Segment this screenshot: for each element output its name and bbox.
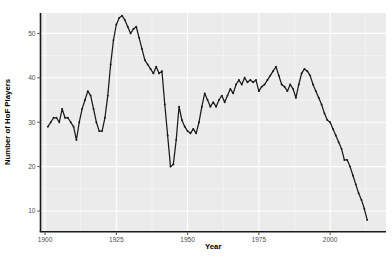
data-point: [84, 99, 86, 101]
data-point: [50, 121, 52, 123]
data-point: [304, 68, 306, 70]
y-tick-label: 50: [28, 30, 36, 37]
data-point: [261, 86, 263, 88]
data-point: [135, 26, 137, 28]
data-point: [244, 77, 246, 79]
data-point: [138, 37, 140, 39]
data-point: [209, 106, 211, 108]
data-point: [361, 199, 363, 201]
data-point: [264, 84, 266, 86]
data-point: [266, 79, 268, 81]
data-point: [346, 159, 348, 161]
data-point: [170, 166, 172, 168]
data-point: [73, 126, 75, 128]
data-point: [318, 97, 320, 99]
data-point: [141, 48, 143, 50]
data-point: [212, 101, 214, 103]
data-point: [56, 117, 58, 119]
data-point: [338, 141, 340, 143]
data-point: [278, 75, 280, 77]
data-point: [67, 117, 69, 119]
data-point: [161, 70, 163, 72]
data-point: [358, 192, 360, 194]
data-point: [341, 148, 343, 150]
data-point: [70, 121, 72, 123]
data-point: [192, 128, 194, 130]
data-point: [64, 117, 66, 119]
data-point: [150, 68, 152, 70]
data-point: [152, 72, 154, 74]
data-point: [272, 70, 274, 72]
data-point: [232, 92, 234, 94]
data-point: [355, 183, 357, 185]
data-point: [241, 84, 243, 86]
data-point: [81, 108, 83, 110]
data-point: [93, 108, 95, 110]
x-tick-label: 1975: [252, 236, 267, 243]
data-point: [95, 121, 97, 123]
data-point: [178, 106, 180, 108]
data-point: [249, 79, 251, 81]
data-point: [269, 75, 271, 77]
chart-page: 190019251950197520001020304050YearNumber…: [0, 0, 392, 257]
data-point: [115, 24, 117, 26]
data-point: [144, 59, 146, 61]
x-tick-label: 1950: [180, 236, 195, 243]
y-tick-label: 30: [28, 119, 36, 126]
data-point: [335, 135, 337, 137]
data-point: [127, 26, 129, 28]
data-point: [147, 64, 149, 66]
data-point: [172, 163, 174, 165]
y-tick-label: 20: [28, 163, 36, 170]
data-point: [132, 28, 134, 30]
data-point: [329, 121, 331, 123]
data-point: [104, 117, 106, 119]
data-point: [195, 132, 197, 134]
data-point: [295, 97, 297, 99]
data-point: [61, 108, 63, 110]
data-point: [181, 119, 183, 121]
data-point: [227, 95, 229, 97]
data-point: [235, 84, 237, 86]
x-axis-title: Year: [205, 242, 221, 251]
data-point: [292, 88, 294, 90]
data-point: [198, 121, 200, 123]
data-point: [215, 106, 217, 108]
data-point: [258, 90, 260, 92]
data-point: [349, 166, 351, 168]
data-point: [224, 101, 226, 103]
data-point: [189, 132, 191, 134]
data-point: [284, 86, 286, 88]
data-point: [155, 66, 157, 68]
x-tick-label: 1925: [109, 236, 124, 243]
data-point: [332, 128, 334, 130]
data-point: [238, 79, 240, 81]
y-tick-label: 40: [28, 74, 36, 81]
data-point: [98, 130, 100, 132]
data-point: [321, 104, 323, 106]
data-point: [175, 139, 177, 141]
data-point: [101, 130, 103, 132]
data-point: [207, 99, 209, 101]
data-point: [107, 95, 109, 97]
data-point: [289, 84, 291, 86]
data-point: [47, 126, 49, 128]
data-point: [218, 99, 220, 101]
data-point: [201, 106, 203, 108]
data-point: [204, 92, 206, 94]
data-point: [221, 95, 223, 97]
data-point: [187, 130, 189, 132]
data-point: [124, 19, 126, 21]
data-point: [90, 95, 92, 97]
data-point: [298, 84, 300, 86]
data-point: [252, 81, 254, 83]
data-point: [306, 70, 308, 72]
data-point: [75, 139, 77, 141]
data-point: [312, 84, 314, 86]
data-point: [281, 84, 283, 86]
data-point: [326, 119, 328, 121]
data-point: [366, 219, 368, 221]
data-point: [286, 90, 288, 92]
y-axis-title: Number of HoF Players: [3, 78, 12, 165]
data-point: [309, 75, 311, 77]
